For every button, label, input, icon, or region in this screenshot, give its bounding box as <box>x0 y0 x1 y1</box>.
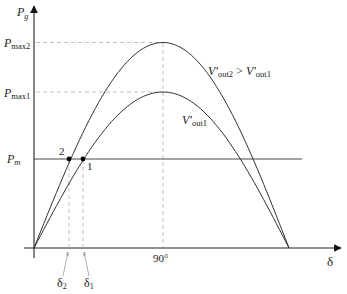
curve-vout2-label: V′out2 > V′out1 <box>208 64 271 79</box>
operating-point-1 <box>81 157 86 162</box>
pmax2-label: Pmax2 <box>3 36 30 51</box>
point-2-label: 2 <box>59 145 65 157</box>
pmax1-label: Pmax1 <box>3 86 30 101</box>
delta2-label: δ2 <box>57 276 67 291</box>
delta1-pointer <box>84 252 89 276</box>
curve-vout1 <box>34 92 289 248</box>
power-angle-diagram: 2 1 Pg Pmax2 Pmax1 Pm δ2 δ1 90° δ V′out2… <box>0 0 347 294</box>
delta2-pointer <box>63 252 68 276</box>
y-axis-label: Pg <box>16 5 28 21</box>
pm-label: Pm <box>6 152 20 167</box>
ninety-degree-label: 90° <box>153 252 168 264</box>
x-axis-label: δ <box>327 254 333 269</box>
curve-vout1-label: V′out1 <box>182 113 207 128</box>
delta1-label: δ1 <box>84 276 94 291</box>
operating-point-2 <box>67 157 72 162</box>
point-1-label: 1 <box>87 160 93 172</box>
